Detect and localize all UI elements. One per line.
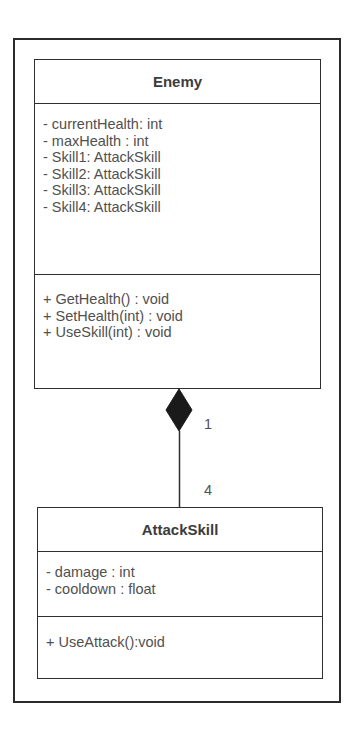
method: + UseAttack():void <box>46 634 322 651</box>
method: + SetHealth(int) : void <box>43 308 320 325</box>
class-name-attackskill: AttackSkill <box>38 508 322 552</box>
attribute: - Skill4: AttackSkill <box>43 199 320 216</box>
attribute: - currentHealth: int <box>43 116 320 133</box>
attribute: - Skill1: AttackSkill <box>43 149 320 166</box>
attribute: - cooldown : float <box>46 581 322 598</box>
attribute: - damage : int <box>46 564 322 581</box>
enemy-methods: + GetHealth() : void + SetHealth(int) : … <box>35 275 320 341</box>
attackskill-methods: + UseAttack():void <box>38 617 322 651</box>
method: + GetHealth() : void <box>43 291 320 308</box>
method: + UseSkill(int) : void <box>43 324 320 341</box>
class-attackskill: AttackSkill - damage : int - cooldown : … <box>37 507 323 679</box>
multiplicity-attackskill: 4 <box>204 482 212 498</box>
attribute: - maxHealth : int <box>43 133 320 150</box>
class-name-enemy: Enemy <box>35 60 320 104</box>
attribute: - Skill3: AttackSkill <box>43 182 320 199</box>
attackskill-attributes: - damage : int - cooldown : float <box>38 552 322 617</box>
attribute: - Skill2: AttackSkill <box>43 166 320 183</box>
multiplicity-enemy: 1 <box>204 416 212 432</box>
enemy-attributes: - currentHealth: int - maxHealth : int -… <box>35 104 320 275</box>
class-enemy: Enemy - currentHealth: int - maxHealth :… <box>34 59 321 389</box>
